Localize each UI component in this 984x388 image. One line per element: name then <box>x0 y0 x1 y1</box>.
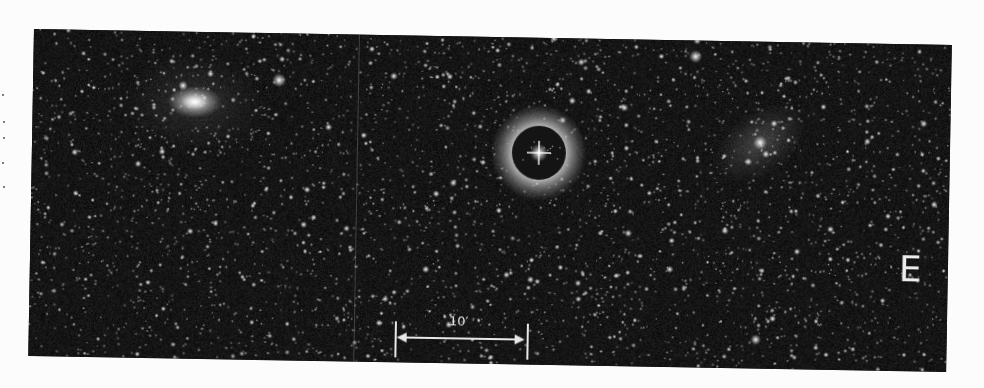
arrow-right-icon <box>515 334 525 344</box>
direction-label-east: E <box>899 251 922 287</box>
scanned-page: E 10′ <box>0 0 984 388</box>
scale-bar-label: 10′ <box>449 314 469 328</box>
bleed-through-mark <box>2 162 4 164</box>
bleed-through-mark <box>3 121 5 123</box>
bleed-through-mark <box>3 186 5 188</box>
arrow-left-icon <box>397 332 407 342</box>
scale-bar: 10′ <box>394 313 529 355</box>
bleed-through-mark <box>3 137 5 139</box>
sky-photograph: E 10′ <box>28 29 952 372</box>
scale-bar-line <box>399 336 523 340</box>
bleed-through-mark <box>2 94 4 96</box>
